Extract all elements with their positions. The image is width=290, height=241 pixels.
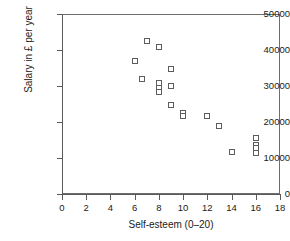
y-tick-label: 10000 — [236, 153, 290, 163]
data-point-marker — [156, 44, 162, 50]
data-point-marker — [144, 38, 150, 44]
y-tick-mark — [57, 158, 62, 159]
data-point-marker — [168, 102, 174, 108]
x-tick-label: 16 — [244, 203, 268, 213]
data-point-marker — [229, 149, 235, 155]
y-tick-label: 50000 — [236, 9, 290, 19]
x-tick-mark — [280, 195, 281, 200]
data-point-marker — [132, 58, 138, 64]
data-point-marker — [204, 113, 210, 119]
data-point-marker — [216, 123, 222, 129]
x-axis-title: Self-esteem (0–20) — [62, 219, 280, 230]
x-tick-mark — [135, 195, 136, 200]
x-tick-mark — [256, 195, 257, 200]
x-tick-mark — [86, 195, 87, 200]
x-tick-label: 2 — [74, 203, 98, 213]
x-tick-mark — [183, 195, 184, 200]
y-tick-label: 30000 — [236, 81, 290, 91]
x-tick-mark — [207, 195, 208, 200]
data-point-marker — [168, 83, 174, 89]
x-tick-label: 10 — [171, 203, 195, 213]
y-tick-mark — [57, 122, 62, 123]
y-tick-mark — [57, 50, 62, 51]
data-point-marker — [253, 135, 259, 141]
y-tick-mark — [57, 14, 62, 15]
y-tick-mark — [57, 86, 62, 87]
x-tick-label: 6 — [123, 203, 147, 213]
data-point-marker — [156, 89, 162, 95]
x-tick-label: 18 — [268, 203, 290, 213]
y-tick-label: 40000 — [236, 45, 290, 55]
data-point-marker — [253, 150, 259, 156]
x-tick-mark — [110, 195, 111, 200]
y-tick-label: 0 — [236, 189, 290, 199]
y-axis-title: Salary in £ per year — [23, 0, 34, 140]
x-tick-mark — [159, 195, 160, 200]
x-tick-label: 0 — [50, 203, 74, 213]
y-axis-spine — [62, 14, 63, 195]
data-point-marker — [180, 113, 186, 119]
x-tick-mark — [232, 195, 233, 200]
x-tick-label: 12 — [195, 203, 219, 213]
scatter-plot-figure: 01000020000300004000050000 0246810121416… — [0, 0, 290, 241]
x-tick-label: 14 — [220, 203, 244, 213]
data-point-marker — [139, 76, 145, 82]
x-tick-mark — [62, 195, 63, 200]
x-tick-label: 4 — [98, 203, 122, 213]
data-point-marker — [168, 66, 174, 72]
x-tick-label: 8 — [147, 203, 171, 213]
y-tick-label: 20000 — [236, 117, 290, 127]
